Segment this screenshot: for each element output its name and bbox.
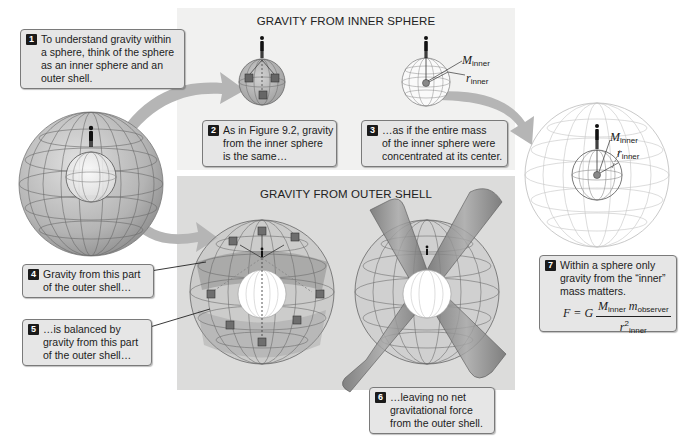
- callout-5: 5 …is balanced by gravity from this part…: [22, 319, 152, 366]
- step-number-badge: 5: [28, 324, 39, 335]
- callout-6: 6 …leaving no net gravitational force fr…: [369, 387, 495, 434]
- callout-4: 4 Gravity from this part of the outer sh…: [22, 264, 154, 298]
- person-silhouette-icon: [426, 246, 429, 255]
- step-number-badge: 4: [28, 269, 39, 280]
- formula-denominator: r2inner: [596, 317, 671, 337]
- m-inner-label: Minner: [462, 50, 490, 68]
- callout-2: 2 As in Figure 9.2, gravity from the inn…: [202, 120, 337, 167]
- step-number-badge: 3: [367, 125, 378, 136]
- outer-shell-with-masses: [190, 220, 334, 364]
- gravity-formula: F = G Minner mobserver r2inner: [560, 300, 671, 328]
- r-inner-label: rinner: [466, 68, 488, 86]
- step-number-badge: 2: [208, 125, 219, 136]
- person-silhouette-icon: [261, 248, 264, 257]
- r-inner-label-final: rinner: [617, 143, 639, 161]
- step-number-badge: 7: [545, 260, 556, 271]
- step-number-badge: 6: [375, 392, 386, 403]
- person-silhouette-icon: [424, 36, 428, 58]
- outer-shell-cones: [342, 189, 506, 392]
- formula-fraction: Minner mobserver r2inner: [596, 300, 671, 337]
- formula-numerator: Minner mobserver: [596, 300, 671, 317]
- step-number-badge: 1: [26, 34, 37, 45]
- inner-sphere-with-masses: [239, 59, 285, 105]
- person-silhouette-icon: [260, 36, 264, 58]
- callout-7: 7 Within a sphere only gravity from the …: [539, 255, 677, 332]
- callout-3: 3 …as if the entire mass of the inner sp…: [361, 120, 508, 167]
- callout-1: 1 To understand gravity within a sphere,…: [20, 29, 185, 89]
